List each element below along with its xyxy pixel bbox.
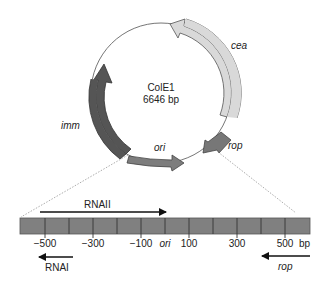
colE1-plasmid-diagram: cea imm ori rop ColE1 6646 bp RNAII −500… [0, 0, 326, 285]
tick-label: 300 [229, 238, 246, 249]
zoom-line-right [218, 152, 296, 213]
imm-gene-arrow [93, 64, 131, 154]
tick-label: −100 [130, 238, 153, 249]
tick-label: −300 [82, 238, 105, 249]
ori-arrow [127, 155, 184, 171]
zoom-line-left [21, 155, 128, 217]
rnai-label: RNAI [45, 262, 69, 273]
plasmid-size: 6646 bp [143, 94, 180, 105]
tick-label: −500 [34, 238, 57, 249]
plasmid-name: ColE1 [147, 82, 175, 93]
rnaii-label: RNAII [84, 199, 111, 210]
rop-label: rop [228, 140, 243, 151]
ori-label: ori [154, 142, 166, 153]
unit-label: bp [299, 238, 311, 249]
rop-gene-arrow [203, 132, 231, 153]
rop-transcript-label: rop [278, 261, 293, 272]
imm-label: imm [61, 120, 80, 131]
tick-label: 500 [277, 238, 294, 249]
cea-label: cea [231, 40, 248, 51]
tick-label: 100 [181, 238, 198, 249]
tick-label-ori: ori [159, 238, 171, 249]
